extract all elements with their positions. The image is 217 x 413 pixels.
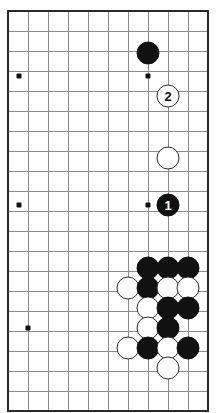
- star-point: [26, 326, 31, 331]
- board-edge-left: [7, 10, 9, 412]
- stone-white[interactable]: [157, 147, 180, 170]
- board-edge-bottom: [7, 410, 209, 412]
- grid-line-horizontal: [8, 231, 208, 232]
- go-diagram-figure: 21: [0, 0, 217, 413]
- board-edge-top: [7, 10, 209, 12]
- star-point: [146, 74, 151, 79]
- grid-line-horizontal: [8, 131, 208, 132]
- grid-line-horizontal: [8, 31, 208, 32]
- stone-white-move-2[interactable]: 2: [157, 85, 180, 108]
- grid-line-horizontal: [8, 391, 208, 392]
- stone-black[interactable]: [177, 297, 200, 320]
- stone-black[interactable]: [177, 337, 200, 360]
- grid-line-horizontal: [8, 191, 208, 192]
- go-board[interactable]: 21: [0, 0, 217, 413]
- grid-line-horizontal: [8, 71, 208, 72]
- grid-line-horizontal: [8, 251, 208, 252]
- stone-black-move-1[interactable]: 1: [157, 194, 180, 217]
- move-number-label: 1: [158, 195, 179, 216]
- stone-white[interactable]: [157, 357, 180, 380]
- grid-line-horizontal: [8, 51, 208, 52]
- move-number-label: 2: [158, 86, 179, 107]
- grid-line-horizontal: [8, 171, 208, 172]
- board-edge-right: [207, 10, 209, 412]
- star-point: [17, 74, 22, 79]
- grid-line-horizontal: [8, 111, 208, 112]
- star-point: [17, 203, 22, 208]
- stone-black[interactable]: [137, 42, 160, 65]
- star-point: [146, 203, 151, 208]
